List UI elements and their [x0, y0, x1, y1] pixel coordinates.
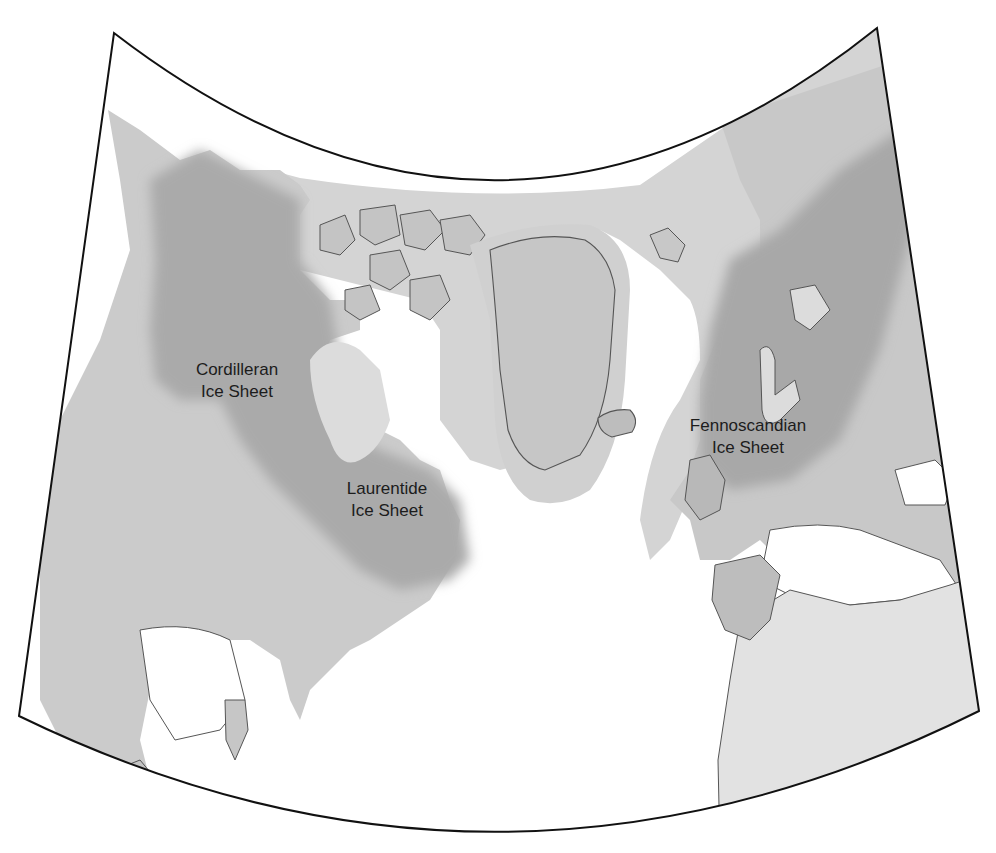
- ice-sheet-map: Cordilleran Ice Sheet Laurentide Ice She…: [0, 0, 996, 853]
- label-fennoscandian-line2: Ice Sheet: [712, 438, 784, 457]
- label-laurentide-line2: Ice Sheet: [351, 501, 423, 520]
- label-laurentide-line1: Laurentide: [347, 479, 427, 498]
- label-fennoscandian-line1: Fennoscandian: [690, 416, 806, 435]
- label-cordilleran-line1: Cordilleran: [196, 360, 278, 379]
- label-cordilleran-line2: Ice Sheet: [201, 382, 273, 401]
